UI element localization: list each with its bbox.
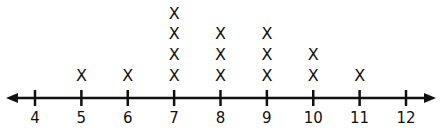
x-mark: X [261,45,272,64]
x-mark: X [215,45,226,64]
tick-label: 10 [304,109,323,127]
x-mark: X [169,4,180,23]
tick-label: 11 [350,109,369,127]
x-mark: X [169,66,180,85]
tick-label: 9 [262,109,272,127]
x-mark: X [122,66,133,85]
tick-label: 6 [123,109,133,127]
x-mark: X [261,24,272,43]
tick-label: 7 [169,109,179,127]
tick-label: 4 [30,109,40,127]
left-arrow-icon [6,93,18,103]
x-mark: X [215,24,226,43]
line-plot: 456789101112 XXXXXXXXXXXXXXX [0,0,441,138]
x-marks: XXXXXXXXXXXXXXX [76,4,365,85]
x-mark: X [354,66,365,85]
x-mark: X [169,45,180,64]
x-mark: X [261,66,272,85]
tick-label: 12 [396,109,415,127]
right-arrow-icon [424,93,436,103]
x-mark: X [169,24,180,43]
x-mark: X [76,66,87,85]
x-mark: X [308,45,319,64]
x-mark: X [215,66,226,85]
tick-label: 8 [216,109,226,127]
tick-label: 5 [77,109,87,127]
x-mark: X [308,66,319,85]
tick-labels: 456789101112 [30,109,415,127]
